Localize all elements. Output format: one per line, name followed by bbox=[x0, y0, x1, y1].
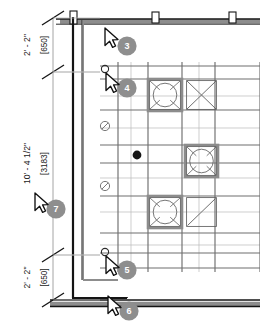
wall-post bbox=[152, 12, 159, 23]
floor-plan-canvas[interactable]: 2' - 2"[650]10' - 4 1/2"[3183]2' - 2"[65… bbox=[0, 0, 260, 335]
dimension-metric-label: [3183] bbox=[40, 152, 49, 175]
solid-point-marker bbox=[133, 151, 142, 160]
dimension-metric-label: [650] bbox=[40, 268, 49, 286]
dimension-imperial-label: 10' - 4 1/2" bbox=[22, 143, 32, 184]
dimension-metric-label: [650] bbox=[40, 36, 49, 54]
step-badge-number: 4 bbox=[124, 83, 129, 93]
dimension-imperial-label: 2' - 2" bbox=[22, 34, 32, 56]
wall-post bbox=[229, 12, 236, 23]
dimension-imperial-label: 2' - 2" bbox=[22, 267, 32, 289]
step-badge-number: 3 bbox=[124, 41, 129, 51]
step-badge-number: 6 bbox=[126, 306, 131, 316]
step-badge-number: 7 bbox=[53, 204, 58, 214]
step-badge-number: 5 bbox=[124, 265, 129, 275]
floor-plan-svg: 2' - 2"[650]10' - 4 1/2"[3183]2' - 2"[65… bbox=[0, 0, 260, 335]
